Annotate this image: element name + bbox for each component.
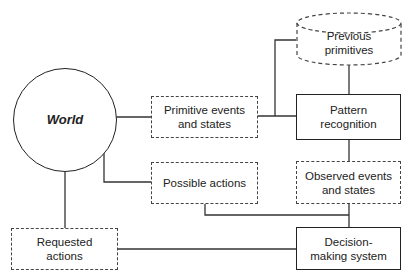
previous-primitives-node: Previous primitives [297,29,401,57]
decision-making-line2: making system [310,249,387,263]
possible-actions-label: Possible actions [163,176,246,190]
pattern-recognition-line2: recognition [320,117,376,131]
primitive-events-line1: Primitive events [164,103,245,117]
primitive-events-node: Primitive events and states [151,96,258,138]
world-node: World [13,68,117,172]
observed-events-line2: and states [322,183,375,197]
previous-primitives-line1: Previous [327,29,372,43]
possible-actions-node: Possible actions [151,162,258,204]
decision-making-node: Decision- making system [296,227,401,270]
requested-actions-line1: Requested [37,235,93,249]
observed-events-line1: Observed events [305,169,392,183]
requested-actions-line2: actions [46,249,82,263]
requested-actions-node: Requested actions [11,228,118,270]
observed-events-node: Observed events and states [296,161,401,204]
previous-primitives-line2: primitives [325,43,374,57]
decision-making-line1: Decision- [325,235,373,249]
pattern-recognition-node: Pattern recognition [296,94,401,140]
world-label: World [47,113,84,127]
pattern-recognition-line1: Pattern [330,103,367,117]
primitive-events-line2: and states [178,117,231,131]
